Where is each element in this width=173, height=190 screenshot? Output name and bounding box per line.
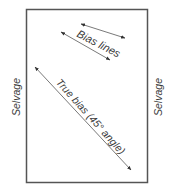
true-bias-label: True bias (45° angle) [54, 76, 128, 156]
bias-lines-label: Bias lines [75, 27, 123, 59]
selvage-left-label: Selvage [10, 78, 22, 116]
selvage-right-label: Selvage [152, 78, 164, 116]
fabric-diagram: Bias lines True bias (45° angle) Selvage… [0, 0, 173, 190]
true-bias-arrow [35, 67, 131, 170]
